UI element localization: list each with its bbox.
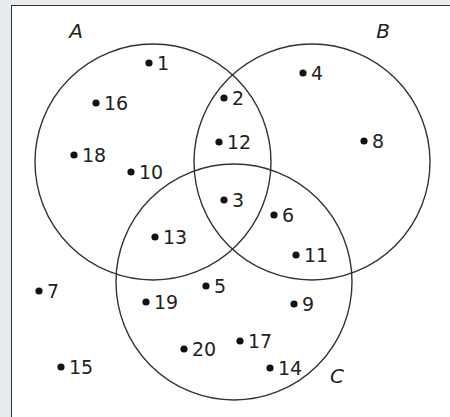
element-3: 3: [220, 189, 244, 211]
element-18: 18: [70, 144, 106, 166]
set-label-a: A: [67, 19, 83, 43]
element-12: 12: [215, 131, 251, 153]
element-10: 10: [127, 161, 163, 183]
element-15: 15: [57, 356, 93, 378]
venn-diagram: ABC 1161810212483136115199201714715: [0, 0, 450, 417]
element-dot: [270, 211, 277, 218]
element-dot: [290, 300, 297, 307]
element-dot: [70, 151, 77, 158]
element-dot: [92, 99, 99, 106]
element-dot: [142, 298, 149, 305]
element-13: 13: [151, 226, 187, 248]
element-1: 1: [145, 52, 169, 74]
element-9: 9: [290, 293, 314, 315]
element-dot: [266, 364, 273, 371]
element-label: 11: [304, 244, 328, 266]
element-19: 19: [142, 291, 178, 313]
element-label: 8: [372, 130, 384, 152]
element-dot: [145, 59, 152, 66]
element-label: 15: [69, 356, 93, 378]
element-dot: [202, 282, 209, 289]
element-label: 1: [157, 52, 169, 74]
element-label: 12: [227, 131, 251, 153]
element-label: 10: [139, 161, 163, 183]
element-dot: [360, 137, 367, 144]
element-label: 20: [192, 338, 216, 360]
element-dot: [292, 251, 299, 258]
element-dot: [127, 168, 134, 175]
element-4: 4: [299, 62, 323, 84]
element-label: 7: [47, 280, 59, 302]
element-14: 14: [266, 357, 302, 379]
element-dot: [35, 287, 42, 294]
element-label: 13: [163, 226, 187, 248]
element-6: 6: [270, 204, 294, 226]
element-label: 3: [232, 189, 244, 211]
set-label-b: B: [376, 19, 390, 43]
element-label: 5: [214, 275, 226, 297]
element-label: 18: [82, 144, 106, 166]
element-11: 11: [292, 244, 328, 266]
element-label: 2: [232, 87, 244, 109]
element-label: 16: [104, 92, 128, 114]
element-dot: [57, 363, 64, 370]
element-label: 17: [248, 330, 272, 352]
element-5: 5: [202, 275, 226, 297]
element-dot: [236, 337, 243, 344]
element-dot: [220, 196, 227, 203]
element-dot: [220, 94, 227, 101]
set-label-c: C: [330, 364, 344, 388]
element-label: 9: [302, 293, 314, 315]
element-dot: [299, 69, 306, 76]
element-dot: [151, 233, 158, 240]
element-8: 8: [360, 130, 384, 152]
element-17: 17: [236, 330, 272, 352]
element-label: 4: [311, 62, 323, 84]
element-label: 6: [282, 204, 294, 226]
element-label: 14: [278, 357, 302, 379]
element-20: 20: [180, 338, 216, 360]
element-7: 7: [35, 280, 59, 302]
element-dot: [180, 345, 187, 352]
element-2: 2: [220, 87, 244, 109]
element-16: 16: [92, 92, 128, 114]
element-label: 19: [154, 291, 178, 313]
element-dot: [215, 138, 222, 145]
